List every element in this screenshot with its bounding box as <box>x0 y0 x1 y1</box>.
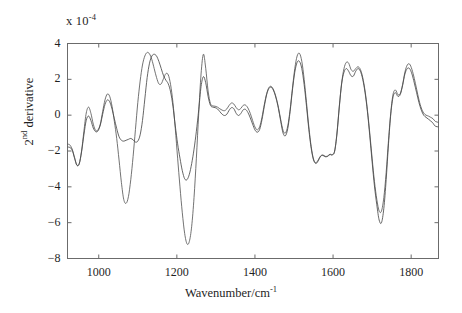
x-tick-label: 1800 <box>381 265 441 280</box>
axis-ticks <box>68 44 439 259</box>
y-tick-label: −8 <box>31 251 61 266</box>
y-tick-label: 0 <box>31 107 61 122</box>
y-tick-label: 2 <box>31 71 61 86</box>
chart-figure: x 10-4 2nd derivative Wavenumber/cm-1 42… <box>0 0 462 313</box>
y-tick-label: −6 <box>31 215 61 230</box>
x-tick-label: 1400 <box>225 265 285 280</box>
x-tick-label: 1000 <box>69 265 129 280</box>
y-tick-label: 4 <box>31 36 61 51</box>
axes-box <box>68 44 439 259</box>
x-tick-label: 1600 <box>303 265 363 280</box>
x-tick-label: 1200 <box>147 265 207 280</box>
y-tick-label: −4 <box>31 179 61 194</box>
data-series-group <box>68 52 439 244</box>
y-tick-label: −2 <box>31 143 61 158</box>
